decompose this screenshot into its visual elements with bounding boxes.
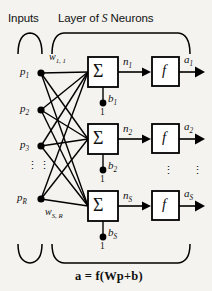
header-layer: Layer of S Neurons (58, 13, 153, 25)
neural-network-layer-diagram: Inputs Layer of S Neurons p1 p2 p3 ⋮ ⋮ p… (0, 0, 212, 291)
input-node-p3 (37, 142, 44, 149)
output-label-s: aS (184, 188, 193, 202)
bias-node-1 (100, 100, 107, 107)
bias-node-s (100, 234, 107, 241)
net-arrowhead-s (142, 202, 151, 211)
layer-brace-bottom (52, 244, 190, 263)
transfer-glyph-s: f (162, 197, 166, 212)
transfer-glyph-1: f (162, 63, 166, 78)
input-label-pR: pR (17, 192, 27, 206)
input-ellipsis: ⋮ (27, 160, 38, 171)
net-label-1: n1 (123, 56, 132, 70)
input-node-p1 (37, 69, 44, 76)
transfer-glyph-2: f (162, 130, 166, 145)
bias-input-2: 1 (100, 175, 105, 185)
weight-label-bottom: wS, R (45, 207, 63, 220)
net-arrowhead-1 (142, 68, 151, 77)
input-node-p2 (37, 106, 44, 113)
input-node-ellipsis: ⋮ (39, 160, 50, 171)
output-label-1: a1 (184, 54, 193, 68)
bias-label-2: b2 (108, 160, 117, 174)
diagram-strokes (0, 0, 212, 291)
header-inputs: Inputs (8, 13, 39, 25)
bias-node-2 (100, 167, 107, 174)
net-label-s: nS (123, 190, 132, 204)
net-arrowhead-2 (142, 135, 151, 144)
inputs-brace-top (18, 33, 42, 54)
bias-label-s: bS (108, 227, 117, 241)
output-column-ellipsis: ⋮ (192, 165, 203, 176)
sum-glyph-s: Σ (93, 196, 103, 214)
sum-glyph-2: Σ (93, 129, 103, 147)
output-arrowhead-s (195, 201, 205, 212)
output-arrowhead-2 (195, 134, 205, 145)
weight-connections (41, 72, 88, 206)
input-label-p1: p1 (20, 66, 29, 80)
header-layer-prefix: Layer of (58, 12, 102, 24)
bias-input-s: 1 (100, 242, 105, 252)
layer-brace-top (52, 33, 190, 54)
bias-label-1: b1 (108, 93, 117, 107)
transfer-column-ellipsis: ⋮ (163, 165, 174, 176)
input-label-p3: p3 (20, 139, 29, 153)
output-arrowhead-1 (195, 67, 205, 78)
summary-equation: a = f(Wp+b) (75, 270, 143, 283)
header-layer-suffix: Neurons (108, 12, 154, 24)
output-label-2: a2 (184, 121, 193, 135)
net-label-2: n2 (123, 123, 132, 137)
input-label-p2: p2 (20, 103, 29, 117)
bias-input-1: 1 (100, 108, 105, 118)
input-node-pR (37, 195, 44, 202)
weight-label-top: w1, 1 (49, 52, 66, 65)
inputs-brace-bottom (18, 244, 42, 263)
sum-glyph-1: Σ (93, 62, 103, 80)
